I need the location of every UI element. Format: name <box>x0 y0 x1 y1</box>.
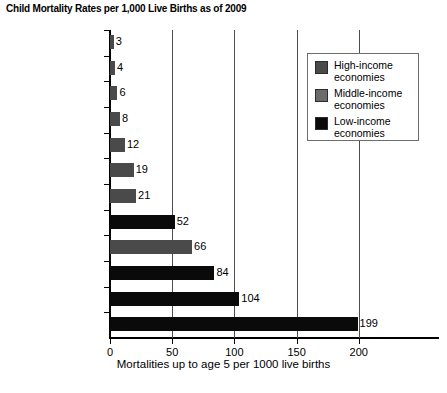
y-tick <box>104 312 110 313</box>
bar-row: Japan3 <box>110 30 365 55</box>
x-tick-label: 100 <box>214 346 254 358</box>
legend-label-line1: Low-income <box>334 116 391 128</box>
x-tick-label: 0 <box>90 346 130 358</box>
bar <box>110 163 134 177</box>
bar-row: Brazil21 <box>110 184 365 209</box>
bar-row: China19 <box>110 158 365 183</box>
bar-value-label: 3 <box>116 34 122 49</box>
y-tick <box>104 30 110 31</box>
x-tick-200 <box>359 338 360 344</box>
legend-label-line1: Middle-income <box>334 88 402 100</box>
bar <box>110 189 136 203</box>
chart-legend: High-incomeeconomiesMiddle-incomeeconomi… <box>307 53 419 141</box>
bar <box>110 292 239 306</box>
bar-row: Bangladesh52 <box>110 210 365 235</box>
bar <box>110 138 125 152</box>
bar-row: Ethiopia104 <box>110 287 365 312</box>
bar <box>110 61 115 75</box>
y-tick <box>104 133 110 134</box>
bar <box>110 266 214 280</box>
bar-value-label: 6 <box>119 85 125 100</box>
bar <box>110 35 114 49</box>
legend-swatch-icon <box>315 89 328 102</box>
bar-row: India66 <box>110 235 365 260</box>
legend-label: High-incomeeconomies <box>334 60 393 83</box>
x-axis-title: Mortalities up to age 5 per 1000 live bi… <box>0 358 447 370</box>
bar <box>110 240 192 254</box>
chart-title: Child Mortality Rates per 1,000 Live Bir… <box>6 3 246 14</box>
bar-value-label: 12 <box>127 137 139 152</box>
legend-item-high[interactable]: High-incomeeconomies <box>315 60 393 83</box>
y-tick <box>104 287 110 288</box>
y-tick <box>104 235 110 236</box>
x-tick-label: 150 <box>277 346 317 358</box>
x-tick-150 <box>297 338 298 344</box>
x-tick-label: 50 <box>152 346 192 358</box>
bar-value-label: 52 <box>177 214 189 229</box>
bar <box>110 86 117 100</box>
legend-label-line2: economies <box>334 128 391 140</box>
bar-value-label: 21 <box>138 188 150 203</box>
bar-value-label: 84 <box>216 265 228 280</box>
legend-label-line2: economies <box>334 72 393 84</box>
legend-label: Low-incomeeconomies <box>334 116 391 139</box>
bar <box>110 317 358 331</box>
x-tick-100 <box>234 338 235 344</box>
x-tick-50 <box>172 338 173 344</box>
legend-label-line2: economies <box>334 100 402 112</box>
x-tick-0 <box>110 338 111 344</box>
bar-value-label: 4 <box>117 60 123 75</box>
bar-value-label: 104 <box>241 291 259 306</box>
legend-swatch-icon <box>315 117 328 130</box>
bar-row: Congo199 <box>110 312 365 337</box>
bar-value-label: 19 <box>136 162 148 177</box>
bar-value-label: 66 <box>194 239 206 254</box>
bar-row: Kenya84 <box>110 261 365 286</box>
y-tick <box>104 158 110 159</box>
legend-label: Middle-incomeeconomies <box>334 88 402 111</box>
bar-value-label: 8 <box>122 111 128 126</box>
x-tick-label: 200 <box>339 346 379 358</box>
y-tick <box>104 56 110 57</box>
bar <box>110 215 175 229</box>
y-tick <box>104 210 110 211</box>
bar <box>110 112 120 126</box>
legend-swatch-icon <box>315 61 328 74</box>
legend-item-low[interactable]: Low-incomeeconomies <box>315 116 391 139</box>
y-tick <box>104 81 110 82</box>
child-mortality-bar-chart: Child Mortality Rates per 1,000 Live Bir… <box>0 0 447 393</box>
bar-value-label: 199 <box>360 316 378 331</box>
legend-item-middle[interactable]: Middle-incomeeconomies <box>315 88 402 111</box>
y-tick <box>104 107 110 108</box>
y-tick <box>104 261 110 262</box>
legend-label-line1: High-income <box>334 60 393 72</box>
y-tick <box>104 184 110 185</box>
